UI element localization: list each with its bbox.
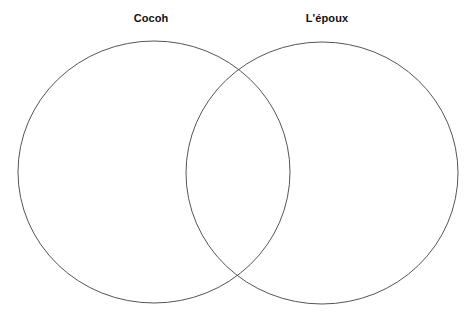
venn-circle-lepoux bbox=[186, 42, 458, 304]
set-label-lepoux: L'époux bbox=[306, 12, 348, 24]
venn-diagram bbox=[0, 0, 476, 320]
set-label-cocoh: Cocoh bbox=[134, 12, 169, 24]
venn-circle-cocoh bbox=[18, 41, 290, 303]
